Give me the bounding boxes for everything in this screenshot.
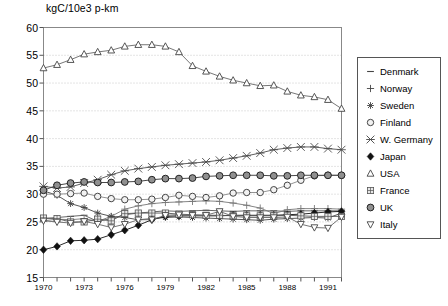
data-point-marker <box>108 225 115 231</box>
data-point-marker <box>67 180 74 187</box>
data-point-marker <box>121 179 128 186</box>
data-point-marker <box>367 204 374 211</box>
data-point-marker <box>284 172 291 179</box>
data-point-marker <box>94 179 101 186</box>
data-point-marker <box>216 172 223 179</box>
open-circle-icon <box>363 115 378 130</box>
data-point-marker <box>311 172 318 179</box>
data-point-marker <box>271 187 277 193</box>
legend-item-finland[interactable]: Finland <box>358 114 440 131</box>
data-point-marker <box>325 225 332 231</box>
data-point-marker <box>216 193 222 199</box>
legend-item-label: USA <box>380 169 400 179</box>
data-point-marker <box>270 172 277 179</box>
legend-item-uk[interactable]: UK <box>358 199 440 216</box>
data-point-marker <box>230 190 236 196</box>
data-point-marker <box>108 195 114 201</box>
open-triangle-down-icon <box>363 217 378 232</box>
data-point-marker <box>367 170 374 176</box>
data-point-marker <box>40 187 47 194</box>
data-point-marker <box>122 197 128 203</box>
data-point-marker <box>257 172 264 179</box>
legend-item-usa[interactable]: USA <box>358 165 440 182</box>
data-point-marker <box>270 82 277 88</box>
data-point-marker <box>81 190 87 196</box>
data-point-marker <box>297 172 304 179</box>
cross-hatch-icon <box>363 183 378 198</box>
data-point-marker <box>176 175 183 182</box>
legend-item-label: France <box>380 186 410 196</box>
legend-item-label: Norway <box>380 84 412 94</box>
data-point-marker <box>176 48 183 54</box>
data-point-marker <box>189 175 196 182</box>
data-point-marker <box>230 172 237 179</box>
data-series-line <box>44 45 342 109</box>
data-point-marker <box>54 243 61 250</box>
legend-item-france[interactable]: France <box>358 182 440 199</box>
line-chart: kgC/10e3 p-km 60555045403530252015 19701… <box>0 0 448 306</box>
data-point-marker <box>81 179 88 186</box>
data-point-marker <box>203 68 210 74</box>
legend-item-label: Denmark <box>380 67 419 77</box>
legend-item-label: Sweden <box>380 101 414 111</box>
legend-item-label: Finland <box>380 118 411 128</box>
data-point-marker <box>148 176 155 183</box>
data-point-marker <box>203 194 209 200</box>
legend-item-label: Japan <box>380 152 406 162</box>
data-point-marker <box>67 190 73 196</box>
data-point-marker <box>94 193 100 199</box>
legend-item-label: Italy <box>380 220 397 230</box>
legend-item-denmark[interactable]: Denmark <box>358 63 440 80</box>
data-point-marker <box>325 172 332 179</box>
data-point-marker <box>162 194 168 200</box>
legend-item-label: W. Germany <box>380 135 433 145</box>
chart-legend: DenmarkNorwaySwedenFinlandW. GermanyJapa… <box>357 57 441 239</box>
data-point-marker <box>367 153 374 160</box>
data-point-marker <box>54 191 60 197</box>
data-point-marker <box>189 193 195 199</box>
data-point-marker <box>81 237 88 244</box>
data-point-marker <box>54 182 61 189</box>
asterisk-icon <box>363 98 378 113</box>
star-x-icon <box>363 132 378 147</box>
data-point-marker <box>108 231 115 238</box>
data-point-marker <box>203 173 210 180</box>
legend-item-norway[interactable]: Norway <box>358 80 440 97</box>
legend-item-w-germany[interactable]: W. Germany <box>358 131 440 148</box>
data-point-marker <box>67 56 74 62</box>
data-point-marker <box>243 189 249 195</box>
data-point-marker <box>338 172 345 179</box>
data-series-usa <box>40 41 345 111</box>
data-point-marker <box>176 192 182 198</box>
legend-item-label: UK <box>380 203 393 213</box>
data-point-marker <box>367 222 374 228</box>
data-point-marker <box>67 237 74 244</box>
legend-item-sweden[interactable]: Sweden <box>358 97 440 114</box>
data-series-group <box>39 41 346 253</box>
legend-item-italy[interactable]: Italy <box>358 216 440 233</box>
filled-circle-icon <box>363 200 378 215</box>
data-point-marker <box>94 235 101 242</box>
plus-icon <box>363 81 378 96</box>
data-point-marker <box>243 172 250 179</box>
data-point-marker <box>284 182 290 188</box>
data-point-marker <box>338 105 345 111</box>
data-point-marker <box>162 175 169 182</box>
open-triangle-up-icon <box>363 166 378 181</box>
data-point-marker <box>135 197 141 203</box>
data-point-marker <box>367 119 373 125</box>
dash-icon <box>363 64 378 79</box>
data-point-marker <box>135 178 142 185</box>
data-point-marker <box>149 196 155 202</box>
data-point-marker <box>40 246 47 253</box>
filled-diamond-icon <box>363 149 378 164</box>
legend-item-japan[interactable]: Japan <box>358 148 440 165</box>
data-point-marker <box>257 189 263 195</box>
data-point-marker <box>284 88 291 94</box>
data-point-marker <box>108 179 115 186</box>
